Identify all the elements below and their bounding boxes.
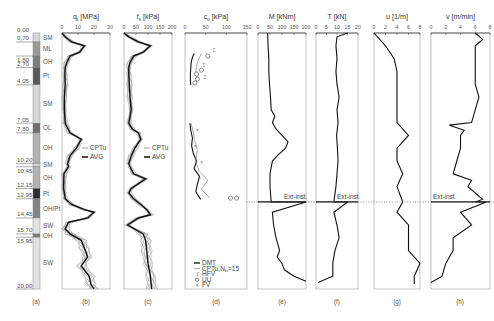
depth-label: 15,95	[17, 237, 33, 244]
panel-caption: (g)	[393, 298, 401, 306]
x-tick-label: 50	[203, 24, 209, 30]
hfv-marker: ⌶	[212, 47, 216, 53]
panel-title: cu [kPa]	[204, 12, 229, 22]
depth-label: 12,95	[17, 191, 33, 198]
soil-layer	[33, 237, 40, 289]
panel-caption: (h)	[456, 298, 464, 306]
layer-label: SW	[43, 222, 53, 229]
layer-label: OH	[43, 174, 53, 181]
geotechnical-profile-figure: SMMLOHPtSMOLOHSMOHPtOH/PtSWOHSW0,000,701…	[0, 0, 494, 321]
panel-caption: (b)	[82, 298, 90, 306]
soil-layer	[33, 234, 40, 237]
x-tick-label: 2	[384, 24, 387, 30]
soil-layer	[33, 68, 40, 85]
layer-label: OH	[43, 144, 53, 151]
svg-text:×: ×	[195, 282, 198, 288]
legend-avg: AVG	[152, 153, 165, 160]
panel-title: M [kNm]	[269, 12, 296, 21]
panel-qt: 0102030qt [MPa]CPTuAVG	[61, 12, 113, 289]
uu-marker	[206, 54, 210, 58]
soil-layer	[33, 33, 40, 42]
panel-tension: 05101520T [kN]Ext-inst.	[315, 12, 361, 289]
x-tick-label: 0	[61, 24, 64, 30]
depth-label: 4,05	[17, 77, 30, 84]
panel-caption: (c)	[144, 298, 151, 306]
depth-label: 2,70	[17, 60, 30, 67]
panel-title: fs [kPa]	[137, 12, 160, 22]
x-tick-label: 150	[290, 24, 299, 30]
x-tick-label: 100	[222, 24, 231, 30]
x-tick-label: 30	[107, 24, 113, 30]
x-tick-label: 6	[407, 24, 410, 30]
layer-label: OH/Pt	[43, 205, 60, 212]
cptu-trace	[62, 33, 95, 289]
soil-layer	[33, 199, 40, 218]
x-tick-label: 15	[345, 24, 351, 30]
curve-moment	[268, 33, 306, 281]
svg-text:⌶: ⌶	[196, 271, 200, 277]
soil-layer	[33, 189, 40, 199]
uu-marker	[193, 81, 197, 85]
depth-label: 12,15	[17, 181, 33, 188]
uu-marker	[194, 72, 198, 76]
x-tick-label: 5	[325, 24, 328, 30]
panel-caption: (d)	[212, 298, 220, 306]
x-tick-label: 100	[144, 24, 153, 30]
layer-label: ML	[43, 45, 52, 52]
x-tick-label: 0	[257, 24, 260, 30]
panel-caption: (a)	[32, 298, 40, 306]
uu-marker	[228, 196, 232, 200]
x-tick-label: 4	[459, 24, 462, 30]
fv-marker: ×	[200, 159, 203, 165]
x-tick-label: 0	[123, 24, 126, 30]
panel-v: 02468v [m/min]Ext-inst.	[430, 12, 492, 289]
layer-label: Pt	[43, 190, 49, 197]
x-tick-label: 150	[243, 24, 252, 30]
layer-label: SM	[43, 161, 52, 168]
dmt-curve	[190, 53, 194, 84]
legend-cptu: CPTu	[90, 144, 107, 151]
fv-marker: ×	[196, 127, 199, 133]
x-tick-label: 200	[168, 24, 177, 30]
x-tick-label: 2	[444, 24, 447, 30]
soil-layer	[33, 123, 40, 133]
depth-label: 0,70	[17, 34, 30, 41]
ext-inst-label: Ext-inst.	[433, 193, 457, 200]
hfv-marker: ⌶	[202, 62, 206, 68]
panel-title: v [m/min]	[446, 12, 475, 21]
cptu-trace	[62, 33, 95, 289]
legend-avg: AVG	[90, 153, 103, 160]
x-tick-label: 0	[373, 24, 376, 30]
x-tick-label: 100	[278, 24, 287, 30]
x-tick-label: 0	[430, 24, 433, 30]
soil-layer	[33, 56, 40, 68]
soil-layer	[33, 85, 40, 123]
layer-label: SM	[43, 34, 52, 41]
soil-layer	[33, 42, 40, 56]
soil-layer	[33, 218, 40, 234]
x-tick-label: 10	[75, 24, 81, 30]
x-tick-label: 200	[302, 24, 311, 30]
panel-caption: (f)	[334, 298, 340, 306]
x-tick-label: 10	[334, 24, 340, 30]
soil-layer	[33, 133, 40, 164]
cptu-trace	[62, 33, 95, 289]
ext-inst-label: Ext-inst.	[337, 193, 361, 200]
depth-label: 10,45	[17, 167, 33, 174]
x-tick-label: 0	[315, 24, 318, 30]
panel-moment: 050100150200M [kNm]Ext-inst.	[257, 12, 311, 289]
avg-curve	[124, 33, 152, 289]
fv-marker: ×	[194, 143, 197, 149]
depth-label: 7,80	[17, 125, 30, 132]
soil-layer	[33, 167, 40, 189]
uu-marker	[235, 196, 239, 200]
hfv-marker: ⌶	[203, 74, 207, 80]
x-tick-label: 8	[419, 24, 422, 30]
depth-label: 0,00	[17, 26, 30, 33]
layer-label: SM	[43, 100, 52, 107]
x-tick-label: 6	[474, 24, 477, 30]
uu-marker	[199, 68, 203, 72]
x-tick-label: 20	[355, 24, 361, 30]
curve-v	[431, 33, 486, 283]
depth-label: 10,20	[17, 156, 33, 163]
